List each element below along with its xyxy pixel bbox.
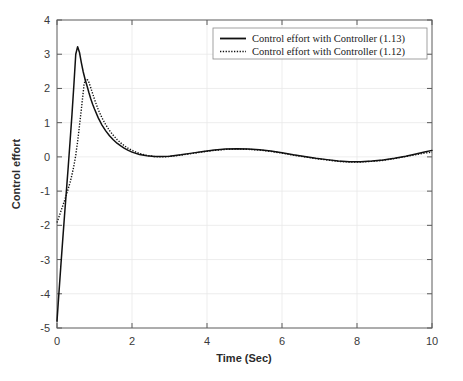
x-tick-label-4: 8 [354,335,360,347]
y-tick-label-0: -5 [40,322,50,334]
y-tick-label-8: 3 [44,48,50,60]
y-tick-label-5: 0 [44,151,50,163]
x-tick-label-0: 0 [54,335,60,347]
control-effort-line-chart: -5-4-3-2-1012340246810 Time (Sec) Contro… [0,0,463,381]
y-tick-label-6: 1 [44,117,50,129]
x-axis-title: Time (Sec) [216,352,272,364]
y-tick-label-2: -3 [40,254,50,266]
y-tick-label-7: 2 [44,82,50,94]
y-tick-label-3: -2 [40,219,50,231]
x-tick-label-1: 2 [129,335,135,347]
legend-label-1: Control effort with Controller (1.12) [252,46,405,58]
x-tick-label-3: 6 [279,335,285,347]
y-tick-label-9: 4 [44,14,50,26]
legend: Control effort with Controller (1.13) Co… [213,28,427,59]
legend-label-0: Control effort with Controller (1.13) [252,33,405,45]
y-tick-label-4: -1 [40,185,50,197]
figure-container: -5-4-3-2-1012340246810 Time (Sec) Contro… [0,0,463,381]
y-axis-title: Control effort [10,139,22,210]
x-tick-label-2: 4 [204,335,210,347]
x-tick-label-5: 10 [426,335,438,347]
y-tick-label-1: -4 [40,288,50,300]
